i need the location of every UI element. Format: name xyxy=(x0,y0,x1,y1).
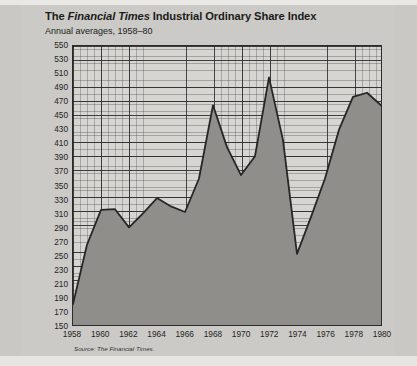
chart-subtitle: Annual averages, 1958–80 xyxy=(45,26,153,36)
series-line xyxy=(73,46,381,325)
plot-area xyxy=(72,45,382,326)
y-axis-tick-label: 490 xyxy=(42,82,68,92)
x-axis-tick-label: 1964 xyxy=(147,329,165,339)
y-axis-tick-label: 470 xyxy=(42,96,68,106)
source-note: Source: The Financial Times. xyxy=(74,345,154,352)
y-axis-tick-label: 250 xyxy=(42,251,68,261)
chart-title-prefix: The xyxy=(45,10,68,22)
y-axis-tick-label: 310 xyxy=(42,209,68,219)
y-axis-tick-label: 230 xyxy=(42,265,68,275)
page-margin-bottom xyxy=(0,356,417,366)
x-axis-tick-label: 1966 xyxy=(175,329,193,339)
y-axis-tick-label: 430 xyxy=(42,124,68,134)
y-axis-tick-label: 210 xyxy=(42,279,68,289)
x-axis-tick-label: 1968 xyxy=(204,329,222,339)
y-axis-tick-label: 510 xyxy=(42,68,68,78)
chart-title: The Financial Times Industrial Ordinary … xyxy=(45,10,316,22)
chart-title-italic: Financial Times xyxy=(68,10,150,22)
x-axis-tick-label: 1980 xyxy=(373,329,391,339)
x-axis-tick-label: 1978 xyxy=(345,329,363,339)
x-axis-tick-label: 1958 xyxy=(63,329,81,339)
y-axis-tick-label: 450 xyxy=(42,110,68,120)
y-axis-tick-label: 550 xyxy=(42,40,68,50)
x-axis: 1958196019621964196619681970197219741976… xyxy=(72,329,382,343)
y-axis: 1501701902102302502702903103303503703904… xyxy=(40,45,68,326)
y-axis-tick-label: 530 xyxy=(42,54,68,64)
x-axis-tick-label: 1962 xyxy=(119,329,137,339)
x-axis-tick-label: 1970 xyxy=(232,329,250,339)
x-axis-tick-label: 1972 xyxy=(260,329,278,339)
chart-title-suffix: Industrial Ordinary Share Index xyxy=(150,10,317,22)
y-axis-tick-label: 290 xyxy=(42,223,68,233)
figure-page: The Financial Times Industrial Ordinary … xyxy=(0,0,417,366)
y-axis-tick-label: 270 xyxy=(42,237,68,247)
chart-card: The Financial Times Industrial Ordinary … xyxy=(22,5,395,356)
y-axis-tick-label: 330 xyxy=(42,195,68,205)
y-axis-tick-label: 350 xyxy=(42,181,68,191)
y-axis-tick-label: 170 xyxy=(42,307,68,317)
x-axis-tick-label: 1960 xyxy=(91,329,109,339)
y-axis-tick-label: 390 xyxy=(42,152,68,162)
y-axis-tick-label: 190 xyxy=(42,293,68,303)
y-axis-tick-label: 410 xyxy=(42,138,68,148)
x-axis-tick-label: 1976 xyxy=(316,329,334,339)
y-axis-tick-label: 370 xyxy=(42,166,68,176)
x-axis-tick-label: 1974 xyxy=(288,329,306,339)
